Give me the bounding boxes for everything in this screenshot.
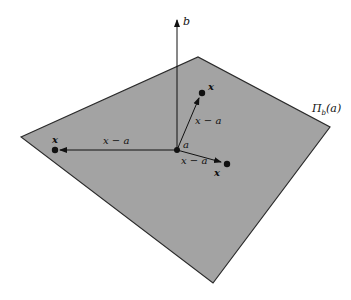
point-a bbox=[174, 147, 180, 153]
plane-symbol: Π bbox=[312, 102, 322, 115]
label-vector-left: x − a bbox=[103, 136, 129, 146]
plane-diagram: b a x x − a x x − a x x − a Πb(a) bbox=[0, 0, 351, 300]
label-plane: Πb(a) bbox=[312, 103, 341, 117]
label-a: a bbox=[183, 140, 189, 150]
point-x-left bbox=[52, 147, 58, 153]
plane-polygon bbox=[21, 57, 330, 283]
label-x-lower-right: x bbox=[214, 168, 220, 178]
point-x-upper bbox=[199, 90, 205, 96]
label-vector-upper: x − a bbox=[195, 116, 221, 126]
label-x-upper: x bbox=[208, 82, 214, 92]
diagram-graphics bbox=[0, 0, 351, 300]
label-b: b bbox=[183, 16, 190, 27]
label-vector-lower-right: x − a bbox=[181, 156, 207, 166]
label-x-left: x bbox=[52, 135, 58, 145]
point-x-lower-right bbox=[224, 161, 230, 167]
plane-argument: (a) bbox=[326, 102, 341, 115]
